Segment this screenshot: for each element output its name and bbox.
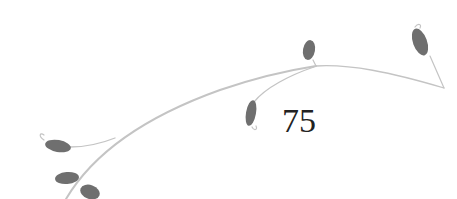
- page-number: 75: [282, 104, 316, 138]
- vine-ornament-icon: [0, 0, 457, 199]
